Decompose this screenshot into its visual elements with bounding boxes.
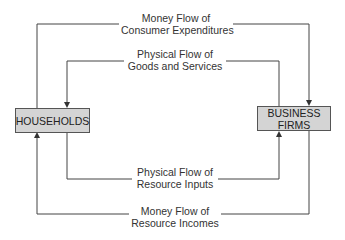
households-label: HOUSEHOLDS (16, 115, 90, 127)
label-line: Resource Inputs (134, 178, 216, 190)
label-line: Goods and Services (126, 60, 224, 72)
business-firms-node: BUSINESS FIRMS (257, 106, 331, 131)
goods-services-label: Physical Flow of Goods and Services (124, 48, 226, 72)
resource-inputs-label: Physical Flow of Resource Inputs (132, 166, 218, 190)
label-line: Resource Incomes (131, 217, 219, 229)
label-line: Money Flow of (131, 205, 219, 217)
label-line: Physical Flow of (134, 166, 216, 178)
label-line: Consumer Expenditures (121, 24, 231, 36)
households-node: HOUSEHOLDS (15, 108, 90, 133)
resource-incomes-label: Money Flow of Resource Incomes (129, 205, 221, 229)
label-line: Money Flow of (121, 12, 231, 24)
business-label-line2: FIRMS (278, 119, 311, 131)
consumer-expenditures-label: Money Flow of Consumer Expenditures (119, 12, 233, 36)
business-label-line1: BUSINESS (267, 107, 320, 119)
label-line: Physical Flow of (126, 48, 224, 60)
arrowhead-icon (276, 131, 282, 137)
